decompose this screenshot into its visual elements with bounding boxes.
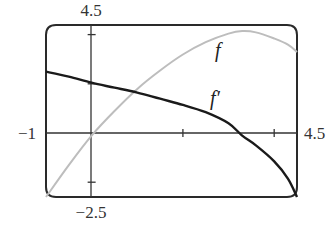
curve-f (46, 31, 297, 197)
x-min-label: −1 (18, 124, 36, 143)
y-max-label: 4.5 (80, 1, 101, 20)
curve-f-prime (46, 72, 297, 197)
plot-frame (46, 25, 297, 197)
chart-svg: 4.5 −2.5 −1 4.5 f f′ (0, 0, 336, 234)
x-max-label: 4.5 (304, 124, 325, 143)
y-min-label: −2.5 (76, 203, 107, 222)
curve-label-f-prime: f′ (210, 87, 221, 110)
curve-label-f: f (215, 39, 223, 62)
